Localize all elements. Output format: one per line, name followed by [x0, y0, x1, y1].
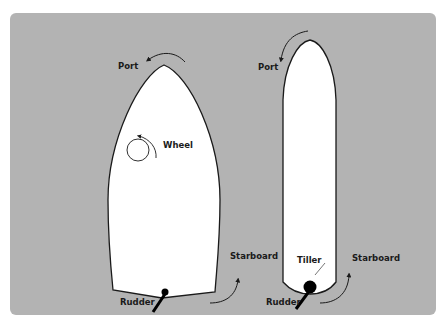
left-hull	[108, 65, 220, 298]
right-rudder-label: Rudder	[266, 297, 302, 307]
tiller-label: Tiller	[297, 255, 322, 265]
rudder-pivot-icon	[162, 289, 169, 296]
wheel-label: Wheel	[163, 140, 193, 150]
left-rudder-label: Rudder	[120, 297, 156, 307]
left-boat: Port Wheel Starboard Rudder	[108, 53, 278, 312]
steering-diagram: Port Wheel Starboard Rudder Port Tiller …	[0, 0, 444, 324]
left-port-label: Port	[118, 61, 138, 71]
tiller-pivot-icon	[304, 281, 317, 294]
left-starboard-label: Starboard	[230, 251, 278, 261]
right-port-label: Port	[258, 62, 278, 72]
right-boat: Port Tiller Starboard Rudder	[258, 31, 400, 309]
port-arrow-icon	[148, 53, 185, 62]
right-starboard-label: Starboard	[352, 253, 400, 263]
